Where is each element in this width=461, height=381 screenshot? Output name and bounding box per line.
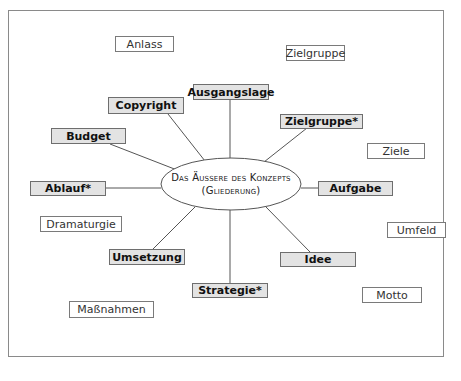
node-umfeld: Umfeld [387,222,446,238]
node-anlass: Anlass [115,36,174,52]
node-idee: Idee [280,252,356,267]
node-motto: Motto [362,287,422,303]
node-zielgruppe: Zielgruppe [286,45,345,61]
connector-copyright [168,114,205,161]
node-aufgabe: Aufgabe [318,181,393,196]
node-ausgangslage: Ausgangslage [193,84,269,100]
connector-zielgruppe-star [264,128,307,162]
node-ziele: Ziele [367,143,425,159]
node-strategie: Strategie* [192,283,268,298]
node-budget: Budget [51,128,126,144]
node-umsetzung: Umsetzung [109,249,185,265]
node-massnahmen: Maßnahmen [69,301,154,318]
center-subtitle: (Gliederung) [202,184,261,198]
connector-idee [266,207,310,252]
center-node: Das Äussere des Konzepts (Gliederung) [161,158,301,210]
node-copyright: Copyright [108,97,184,114]
node-zielgruppe-star: Zielgruppe* [280,114,363,129]
node-dramaturgie: Dramaturgie [40,216,122,232]
connector-umsetzung [152,207,195,250]
center-title: Das Äussere des Konzepts [171,171,291,185]
node-ablauf: Ablauf* [30,181,106,196]
